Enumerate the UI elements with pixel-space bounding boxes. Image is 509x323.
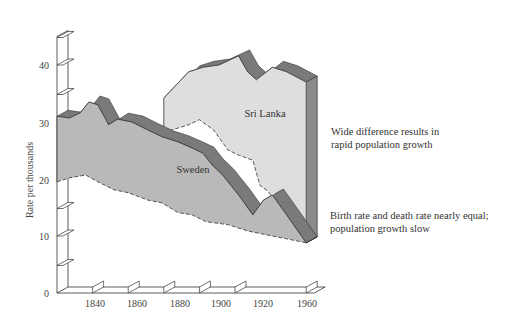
y-tick-40: 40 (39, 60, 49, 71)
y-tick-0: 0 (44, 288, 49, 299)
x-tick-slab (93, 281, 104, 293)
x-tick-1840: 1840 (85, 298, 105, 309)
annotation-slow-growth: Birth rate and death rate nearly equal; … (330, 209, 489, 235)
annotation-rapid-growth-line2: rapid population growth (331, 138, 439, 151)
y-tick-slab (57, 230, 74, 236)
y-tick-slab (57, 260, 74, 266)
x-tick-1860: 1860 (127, 298, 147, 309)
y-tick-30: 30 (39, 118, 49, 129)
y-tick-slab (57, 89, 74, 95)
y-tick-10: 10 (39, 231, 49, 242)
x-tick-slab (164, 281, 175, 293)
annotation-slow-growth-line1: Birth rate and death rate nearly equal; (330, 209, 489, 222)
x-tick-1960: 1960 (297, 298, 317, 309)
chart-canvas: Rate per thousands 0 10 20 30 40 1840 18… (0, 0, 509, 323)
annotation-rapid-growth: Wide difference results in rapid populat… (331, 125, 439, 151)
x-tick-1920: 1920 (253, 298, 273, 309)
axis-corner (57, 287, 68, 293)
x-tick-slab (235, 281, 246, 293)
right-side-face (306, 76, 317, 243)
y-tick-slab (57, 203, 74, 209)
annotation-rapid-growth-line1: Wide difference results in (331, 125, 439, 138)
series-layer (57, 50, 317, 243)
x-tick-slab (306, 281, 317, 293)
series-label-sweden: Sweden (176, 164, 210, 175)
y-tick-20: 20 (39, 175, 49, 186)
x-tick-slab (199, 281, 210, 293)
y-tick-slab (57, 32, 74, 38)
x-tick-1900: 1900 (211, 298, 231, 309)
series-label-sri-lanka: Sri Lanka (244, 108, 285, 119)
x-tick-slab (128, 281, 139, 293)
y-tick-slab (57, 59, 74, 65)
annotation-slow-growth-line2: population growth slow (330, 222, 489, 235)
x-tick-1880: 1880 (170, 298, 190, 309)
y-axis-title: Rate per thousands (24, 142, 35, 218)
